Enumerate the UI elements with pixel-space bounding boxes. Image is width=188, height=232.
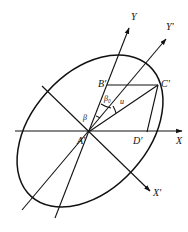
label-beta: β <box>82 113 87 122</box>
angle-beta-arc <box>96 116 100 118</box>
label-b-prime: B' <box>98 78 107 89</box>
segment-a-c <box>90 85 158 131</box>
label-y: Y <box>131 11 138 22</box>
label-x: X <box>175 135 183 146</box>
label-beta0: β₀ <box>103 94 111 103</box>
y-prime-axis <box>22 39 166 210</box>
label-x-prime: X' <box>152 187 162 198</box>
label-a-prime: A' <box>76 135 86 146</box>
label-c-prime: C' <box>161 78 171 89</box>
ellipse-axes-diagram: Y Y' X X' B' C' A' D' β β₀ u <box>0 0 188 232</box>
segment-c-d <box>147 85 158 132</box>
ellipse <box>0 27 188 232</box>
y-axis <box>55 28 129 218</box>
label-u: u <box>120 97 124 106</box>
label-d-prime: D' <box>132 135 143 146</box>
label-y-prime: Y' <box>166 21 175 32</box>
angle-u-arc <box>113 106 116 113</box>
